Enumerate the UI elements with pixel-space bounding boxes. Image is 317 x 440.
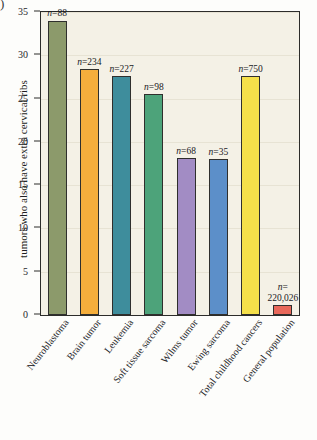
- bar-annotation: n=227: [82, 64, 162, 75]
- bar-annotation: n=750: [211, 64, 291, 75]
- bar: [241, 76, 260, 315]
- bar: [209, 159, 228, 315]
- plot-area: n=88n=234n=227n=98n=68n=35n=750n=220,026: [40, 11, 300, 316]
- x-tick-label: General population: [111, 317, 297, 440]
- bar-annotation: n=98: [114, 82, 194, 93]
- bar-annotation: n=220,026: [243, 282, 317, 303]
- figure-panel: ) 05101520253035 tumors who also have ex…: [0, 0, 317, 440]
- bar: [273, 305, 292, 315]
- bar: [144, 94, 163, 315]
- y-axis-title: tumors who also have extra cervical ribs: [17, 24, 29, 314]
- bar: [80, 69, 99, 315]
- x-axis-tick-labels: NeuroblastomaBrain tumorLeukemiaSoft tis…: [0, 317, 317, 440]
- bar: [112, 76, 131, 315]
- bar-annotation: n=88: [17, 8, 97, 19]
- x-tick-label: Brain tumor: [36, 317, 103, 398]
- bar: [177, 158, 196, 315]
